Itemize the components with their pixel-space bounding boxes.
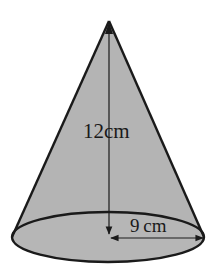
radius-label: 9 cm: [130, 215, 167, 236]
cone-base: [12, 212, 204, 262]
height-label: 12cm: [83, 119, 130, 143]
cone-diagram: 12cm 9 cm: [0, 0, 219, 278]
